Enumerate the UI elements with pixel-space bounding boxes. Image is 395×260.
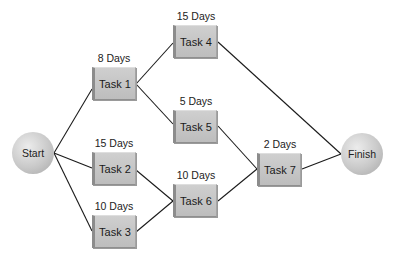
edge-start-task3 [54,153,92,231]
task4-duration: 15 Days [166,10,226,22]
finish-label: Finish [348,148,376,160]
task2-box: Task 2 [92,152,136,185]
task7-box: Task 7 [257,153,301,186]
task6-label: Task 6 [180,195,212,207]
finish-node: Finish [341,133,383,175]
task5-duration: 5 Days [166,95,226,107]
network-diagram: Start Finish 8 Days Task 1 15 Days Task … [0,0,395,260]
task2-label: Task 2 [99,163,131,175]
task3-box: Task 3 [92,215,136,248]
start-label: Start [22,147,44,159]
task4-label: Task 4 [180,36,212,48]
edge-task7-finish [302,154,341,169]
task1-duration: 8 Days [84,52,144,64]
task4-box: Task 4 [173,25,217,58]
task6-box: Task 6 [173,184,217,217]
task1-box: Task 1 [92,67,136,100]
task3-duration: 10 Days [84,200,144,212]
task2-duration: 15 Days [84,137,144,149]
task5-box: Task 5 [173,110,217,143]
task7-duration: 2 Days [250,138,310,150]
start-node: Start [12,132,54,174]
task3-label: Task 3 [99,226,131,238]
task5-label: Task 5 [180,121,212,133]
task7-label: Task 7 [264,164,296,176]
task1-label: Task 1 [99,78,131,90]
task6-duration: 10 Days [166,169,226,181]
